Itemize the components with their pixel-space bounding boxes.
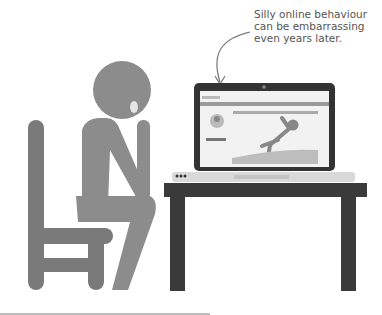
illustration: Silly online behaviour can be embarrassi…	[0, 0, 382, 315]
scene-graphic	[0, 0, 382, 315]
caption-text: Silly online behaviour can be embarrassi…	[254, 8, 374, 44]
caption-line-3: even years later.	[254, 32, 374, 44]
trackpad	[234, 175, 289, 179]
caption-line-1: Silly online behaviour	[254, 8, 374, 20]
table-icon	[164, 183, 367, 291]
person-icon	[76, 61, 156, 290]
caption-line-2: can be embarrassing	[254, 20, 374, 32]
laptop-icon	[172, 83, 355, 182]
curved-arrow-icon	[215, 32, 250, 84]
